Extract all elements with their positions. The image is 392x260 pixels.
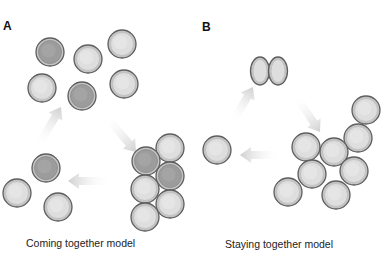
panel-a-cell-light [74,45,102,73]
cells-layer [3,30,380,231]
panel-b-cell-light [322,181,350,209]
panel-a-cell-light [156,190,184,218]
panel-b-cell-light [340,157,368,185]
panel-b-cell-light [274,178,302,206]
panel-a-arrow-1 [31,103,68,150]
panel-b-caption: Staying together model [225,238,333,250]
panel-b-arrow-1 [226,83,260,126]
panel-a-cell-light [3,179,31,207]
panel-a-cell-light [131,175,159,203]
panel-a-cell-light [28,74,56,102]
panel-b-cell-light [344,124,372,152]
panel-a-arrow-2 [100,111,142,157]
panel-a-caption: Coming together model [26,237,135,249]
panel-a-cell-light [44,193,72,221]
cell-diagram [0,0,392,260]
panel-b-arrow-2 [289,92,326,137]
dividing-cell-icon [251,57,288,85]
panel-b-cell-light [298,160,326,188]
panel-a-cell-dark [36,38,64,66]
panel-a-cell-dark [132,147,160,175]
dividing-cell [251,57,288,85]
panel-a-cell-light [108,30,136,58]
panel-b-cell-light [203,136,231,164]
panel-a-cell-dark [68,82,96,110]
panel-b-cell-light [292,133,320,161]
panel-a-cell-dark [32,154,60,182]
panel-b-arrow-3 [240,147,280,163]
panel-b-cell-light [352,96,380,124]
panel-a-arrow-3 [68,173,110,189]
panel-a-cell-light [110,70,138,98]
panel-a-cell-light [131,203,159,231]
panel-a-cell-dark [156,162,184,190]
